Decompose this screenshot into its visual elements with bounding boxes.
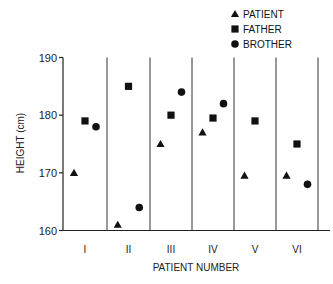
x-category-label: II (126, 244, 132, 255)
legend-label: BROTHER (243, 39, 292, 50)
brother-legend-marker (231, 40, 239, 48)
patient-point (114, 221, 122, 228)
legend-label: PATIENT (243, 9, 284, 20)
brother-point (135, 204, 143, 212)
x-category-label: I (84, 244, 87, 255)
y-tick-label: 160 (39, 225, 57, 237)
patient-point (282, 172, 290, 179)
patient-point (240, 172, 248, 179)
data-points (70, 83, 311, 228)
father-point (251, 117, 258, 124)
y-axis-title: HEIGHT (cm) (15, 113, 26, 173)
father-point (81, 117, 88, 124)
brother-point (92, 123, 100, 131)
y-tick-label: 170 (39, 167, 57, 179)
brother-point (220, 100, 228, 108)
legend: PATIENTFATHERBROTHER (231, 9, 292, 50)
father-point (125, 83, 132, 90)
x-category-label: VI (292, 244, 301, 255)
patient-point (198, 128, 206, 135)
patient-point (70, 169, 78, 176)
x-axis: IIIIIIIVVVI (63, 231, 330, 256)
brother-point (304, 181, 312, 189)
patient-legend-marker (231, 10, 239, 17)
father-point (293, 140, 300, 147)
father-point (167, 112, 174, 119)
height-scatter-chart: PATIENTFATHERBROTHER 160170180190 IIIIII… (0, 0, 333, 284)
y-axis: 160170180190 (39, 52, 63, 237)
patient-point (156, 140, 164, 147)
x-category-label: III (167, 244, 175, 255)
y-tick-label: 180 (39, 109, 57, 121)
brother-point (178, 88, 186, 96)
y-tick-label: 190 (39, 52, 57, 64)
x-category-label: V (252, 244, 259, 255)
x-axis-title: PATIENT NUMBER (153, 262, 240, 273)
father-point (209, 114, 216, 121)
father-legend-marker (231, 25, 238, 32)
legend-label: FATHER (243, 24, 282, 35)
x-category-label: IV (208, 244, 218, 255)
